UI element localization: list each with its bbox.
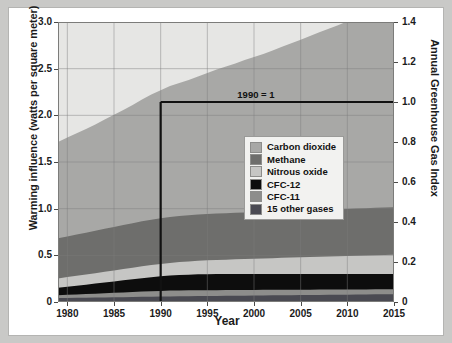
x-tickmark-7 <box>394 302 395 306</box>
x-tickmark-4 <box>254 302 255 306</box>
legend-item-label: CFC-11 <box>267 192 300 202</box>
legend-swatch-icon <box>250 191 262 202</box>
y-tick-label-left-2: 1.0 <box>18 203 52 214</box>
y-tick-label-right-1: 0.2 <box>402 256 436 267</box>
x-tickmark-5 <box>301 302 302 306</box>
y-tick-label-right-4: 0.8 <box>402 136 436 147</box>
y-tick-label-left-5: 2.5 <box>18 63 52 74</box>
y-tickmark-right-2 <box>394 222 398 223</box>
x-tickmark-0 <box>67 302 68 306</box>
x-tick-label-2: 1990 <box>139 308 183 319</box>
legend-item: Nitrous oxide <box>250 166 336 178</box>
y-tickmark-right-5 <box>394 102 398 103</box>
x-tick-label-1: 1985 <box>92 308 136 319</box>
y-tickmark-right-4 <box>394 142 398 143</box>
legend-item: CFC-11 <box>250 191 336 203</box>
y-tickmark-right-6 <box>394 62 398 63</box>
y-tickmark-left-1 <box>54 255 58 256</box>
legend-item-label: Nitrous oxide <box>267 167 328 177</box>
y-tick-label-right-7: 1.4 <box>402 16 436 27</box>
legend-item: Carbon dioxide <box>250 141 336 153</box>
y-tickmark-left-6 <box>54 22 58 23</box>
legend-swatch-icon <box>250 142 262 153</box>
chart-legend: Carbon dioxideMethaneNitrous oxideCFC-12… <box>244 136 344 220</box>
y-tickmark-left-3 <box>54 162 58 163</box>
legend-item-label: 15 other gases <box>267 204 334 214</box>
y-tickmark-left-5 <box>54 69 58 70</box>
legend-item-label: Methane <box>267 155 306 165</box>
legend-item: Methane <box>250 153 336 165</box>
x-tickmark-1 <box>114 302 115 306</box>
y-tickmark-left-4 <box>54 115 58 116</box>
y-tick-label-right-6: 1.2 <box>402 56 436 67</box>
y-tick-label-left-1: 0.5 <box>18 249 52 260</box>
y-tickmark-right-3 <box>394 182 398 183</box>
x-tick-label-5: 2005 <box>279 308 323 319</box>
x-tick-label-4: 2000 <box>232 308 276 319</box>
y-axis-title-right: Annual Greenhouse Gas Index <box>429 0 441 238</box>
x-tickmark-3 <box>207 302 208 306</box>
y-tick-label-right-2: 0.4 <box>402 216 436 227</box>
legend-swatch-icon <box>250 179 262 190</box>
legend-swatch-icon <box>250 166 262 177</box>
y-tick-label-right-3: 0.6 <box>402 176 436 187</box>
y-tick-label-right-0: 0 <box>402 296 436 307</box>
reference-line-label: 1990 = 1 <box>237 89 274 100</box>
x-tick-label-3: 1995 <box>185 308 229 319</box>
y-tickmark-right-1 <box>394 262 398 263</box>
y-tick-label-right-5: 1.0 <box>402 96 436 107</box>
y-tickmark-left-2 <box>54 209 58 210</box>
legend-item: 15 other gases <box>250 203 336 215</box>
x-tickmark-2 <box>161 302 162 306</box>
legend-swatch-icon <box>250 204 262 215</box>
y-tick-label-left-4: 2.0 <box>18 109 52 120</box>
x-tick-label-0: 1980 <box>45 308 89 319</box>
legend-item-label: Carbon dioxide <box>267 142 336 152</box>
x-tick-label-7: 2015 <box>372 308 416 319</box>
y-tick-label-left-6: 3.0 <box>18 16 52 27</box>
y-tick-label-left-3: 1.5 <box>18 156 52 167</box>
legend-item: CFC-12 <box>250 178 336 190</box>
x-tickmark-6 <box>347 302 348 306</box>
legend-swatch-icon <box>250 154 262 165</box>
chart-figure: Warming influence (watts per square mete… <box>8 7 444 336</box>
y-tickmark-left-0 <box>54 302 58 303</box>
y-tickmark-right-7 <box>394 22 398 23</box>
legend-item-label: CFC-12 <box>267 180 300 190</box>
x-tick-label-6: 2010 <box>325 308 369 319</box>
y-tick-label-left-0: 0 <box>18 296 52 307</box>
